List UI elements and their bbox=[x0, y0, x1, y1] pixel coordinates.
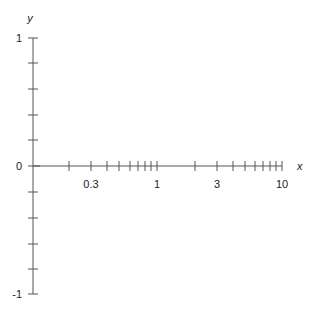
x-tick-label: 3 bbox=[214, 178, 220, 190]
y-axis-label: y bbox=[26, 12, 34, 24]
x-tick-label: 0.3 bbox=[83, 178, 98, 190]
x-axis-label: x bbox=[296, 160, 303, 172]
y-tick-label: 1 bbox=[16, 32, 22, 44]
y-ticks: 10-1 bbox=[12, 32, 40, 300]
y-tick-label: -1 bbox=[12, 288, 22, 300]
x-tick-label: 10 bbox=[276, 178, 288, 190]
y-tick-label: 0 bbox=[16, 160, 22, 172]
x-ticks: 0.31310 bbox=[69, 161, 288, 190]
x-tick-label: 1 bbox=[154, 178, 160, 190]
semilog-axes-diagram: 10-1 0.31310 x y bbox=[0, 0, 311, 311]
